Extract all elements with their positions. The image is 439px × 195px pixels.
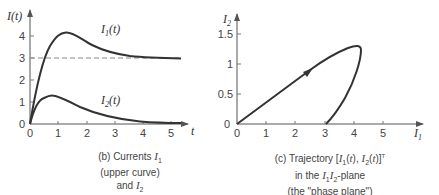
phase-plane-plot: 0 1 2 3 4 5 0 0.5 1 1.5 I2 I1 <box>218 12 423 142</box>
x-tick-label: 1 <box>55 127 61 139</box>
x-tick-label: 0 <box>27 127 33 139</box>
y-tick-label: 3 <box>19 52 25 64</box>
y-ticks <box>237 34 241 94</box>
x-tick-label: 1 <box>263 127 269 139</box>
y-tick-label: 0 <box>224 118 230 130</box>
currents-plot: 0 1 2 3 4 5 0 1 2 3 4 I(t) t I1(t) I2(t) <box>6 9 195 139</box>
caption-b: (b) Currents I1 (upper curve) and I2 <box>65 150 195 195</box>
y-axis-label: I2 <box>222 12 231 28</box>
curve-label-i2: I2(t) <box>100 93 120 109</box>
y-tick-label: 0.5 <box>218 88 233 100</box>
x-tick-label: 2 <box>292 127 298 139</box>
x-tick-label: 3 <box>112 127 118 139</box>
y-tick-label: 2 <box>19 74 25 86</box>
y-tick-label: 4 <box>19 30 25 42</box>
x-axis-label: t <box>191 124 195 138</box>
direction-arrow-icon <box>303 68 313 77</box>
curve-i1 <box>30 32 181 124</box>
y-tick-label: 1.5 <box>218 28 233 40</box>
y-axis-label: I(t) <box>6 9 22 23</box>
x-tick-label: 4 <box>351 127 357 139</box>
x-axis-label: I1 <box>413 126 422 142</box>
y-tick-label: 0 <box>19 118 25 130</box>
y-tick-label: 1 <box>19 96 25 108</box>
x-tick-label: 5 <box>380 127 386 139</box>
x-tick-label: 4 <box>140 127 146 139</box>
x-tick-label: 0 <box>234 127 240 139</box>
curve-label-i1: I1(t) <box>100 22 120 38</box>
trajectory-curve <box>237 46 361 124</box>
x-tick-label: 2 <box>84 127 90 139</box>
x-tick-label: 3 <box>322 127 328 139</box>
caption-c: (c) Trajectory [I1(t), I2(t)]T in the I1… <box>250 150 410 195</box>
y-ticks <box>30 36 34 102</box>
y-tick-label: 1 <box>227 58 233 70</box>
x-tick-label: 5 <box>168 127 174 139</box>
